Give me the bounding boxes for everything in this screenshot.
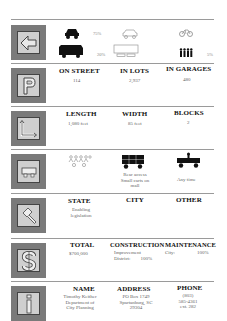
- info-i-icon: [24, 294, 34, 314]
- header-width: WIDTH: [122, 110, 147, 118]
- value-maintenance: City:100%: [165, 250, 225, 256]
- value-on-street: 114: [73, 78, 80, 84]
- delivery-truck-icon: [121, 154, 145, 169]
- tile-parking: [11, 68, 46, 103]
- pedestrian-percent: 5%: [207, 52, 213, 57]
- header-blocks: BLOCKS: [174, 109, 204, 117]
- crowd-icon: [68, 155, 92, 167]
- parking-p-icon: [21, 77, 37, 95]
- header-in-lots: IN LOTS: [120, 67, 149, 75]
- header-state: STATE: [68, 197, 90, 205]
- divider: [11, 149, 214, 150]
- car-percent: 75%: [93, 31, 101, 36]
- divider: [11, 281, 214, 282]
- tile-mode: [11, 25, 46, 60]
- outline-car-icon: [122, 28, 138, 39]
- divider: [11, 106, 214, 107]
- bus-icon: [113, 44, 139, 57]
- header-city: CITY: [126, 196, 144, 204]
- value-rear-access: Rear access Small carts on mall: [115, 172, 155, 189]
- value-width: 85 feet: [128, 121, 142, 127]
- divider: [11, 63, 214, 64]
- value-in-lots: 2,937: [129, 78, 140, 84]
- header-on-street: ON STREET: [59, 67, 100, 75]
- delivery-cart-icon: [20, 165, 38, 179]
- header-phone: PHONE: [177, 284, 202, 292]
- cart-icon: [176, 152, 201, 169]
- divider: [11, 193, 214, 194]
- divider: [11, 19, 214, 20]
- tile-legislation: [11, 198, 46, 233]
- header-construction: CONSTRUCTION: [110, 241, 164, 248]
- tile-dimensions: [11, 111, 46, 146]
- header-name: NAME: [73, 285, 95, 293]
- value-total: $700,000: [69, 251, 88, 257]
- dollar-sign-icon: [20, 251, 38, 271]
- header-in-garages: IN GARAGES: [166, 65, 211, 73]
- divider: [11, 238, 214, 239]
- value-in-garages: 480: [183, 77, 191, 83]
- arrow-left-icon: [20, 35, 38, 51]
- tile-contact: [11, 286, 46, 321]
- value-address: PO Box 1749 Spartanburg, SC 29304: [115, 294, 157, 311]
- value-blocks: 2: [187, 120, 190, 126]
- header-total: TOTAL: [70, 241, 94, 249]
- gavel-icon: [20, 207, 38, 225]
- value-phone: (803) 585-4361 ext. 282: [175, 293, 201, 310]
- pedestrians-icon: [179, 48, 193, 57]
- van-icon: [58, 44, 84, 58]
- bicycle-icon: [179, 29, 193, 37]
- tile-delivery: [11, 154, 46, 189]
- tile-cost: [11, 243, 46, 278]
- van-percent: 20%: [97, 52, 105, 57]
- value-name: Timothy Keither Department of City Plann…: [57, 294, 103, 311]
- car-icon: [64, 28, 80, 39]
- header-length: LENGTH: [66, 110, 97, 118]
- header-other: OTHER: [176, 196, 202, 204]
- corner-dimension-icon: [19, 119, 38, 138]
- value-any-time: Any time: [177, 177, 196, 183]
- value-state: Enabling legislation: [66, 207, 96, 218]
- header-maintenance: MAINTENANCE: [165, 241, 216, 248]
- value-length: 1,080 feet: [68, 121, 88, 127]
- header-address: ADDRESS: [117, 285, 150, 293]
